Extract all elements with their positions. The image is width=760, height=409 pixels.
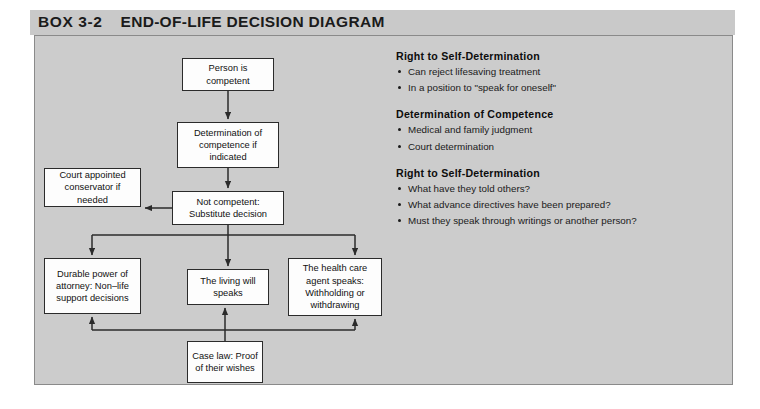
text-panel: Right to Self-Determination Can reject l…: [396, 50, 726, 231]
text-section: Determination of Competence Medical and …: [396, 108, 726, 153]
node-durable-power-of-attorney: Durable power of attorney: Non–life supp…: [44, 258, 141, 314]
node-court-appointed-conservator: Court appointed conservator if needed: [44, 168, 141, 207]
bullet-item: Can reject lifesaving treatment: [396, 65, 726, 79]
node-not-competent: Not competent: Substitute decision: [172, 191, 284, 225]
box-3-2-figure: BOX 3-2 END-OF-LIFE DECISION DIAGRAM: [30, 10, 735, 388]
bullet-item: Medical and family judgment: [396, 123, 726, 137]
bullet-item: What have they told others?: [396, 182, 726, 196]
node-determination-of-competence: Determination of competence if indicated: [177, 122, 279, 168]
node-person-competent: Person is competent: [182, 58, 274, 91]
screenshot-page: BOX 3-2 END-OF-LIFE DECISION DIAGRAM: [0, 0, 760, 409]
bullet-list: Can reject lifesaving treatment In a pos…: [396, 65, 726, 95]
bullet-item: Must they speak through writings or anot…: [396, 214, 726, 228]
box-number-label: BOX 3-2: [38, 13, 103, 31]
node-living-will-speaks: The living will speaks: [187, 269, 269, 305]
bullet-item: In a position to "speak for oneself": [396, 81, 726, 95]
box-header-content: BOX 3-2 END-OF-LIFE DECISION DIAGRAM: [38, 13, 385, 31]
section-heading: Determination of Competence: [396, 108, 726, 120]
section-heading: Right to Self-Determination: [396, 50, 726, 62]
diagram-panel: Person is competent Determination of com…: [34, 35, 733, 385]
node-health-care-agent-speaks: The health care agent speaks: Withholdin…: [288, 258, 382, 316]
box-header-band: BOX 3-2 END-OF-LIFE DECISION DIAGRAM: [30, 10, 735, 35]
bullet-list: Medical and family judgment Court determ…: [396, 123, 726, 153]
text-section: Right to Self-Determination Can reject l…: [396, 50, 726, 95]
text-section: Right to Self-Determination What have th…: [396, 167, 726, 229]
bullet-item: What advance directives have been prepar…: [396, 198, 726, 212]
box-title: END-OF-LIFE DECISION DIAGRAM: [121, 13, 385, 31]
node-case-law: Case law: Proof of their wishes: [187, 341, 263, 383]
bullet-item: Court determination: [396, 140, 726, 154]
flowchart: Person is competent Determination of com…: [35, 36, 395, 386]
section-heading: Right to Self-Determination: [396, 167, 726, 179]
bullet-list: What have they told others? What advance…: [396, 182, 726, 229]
